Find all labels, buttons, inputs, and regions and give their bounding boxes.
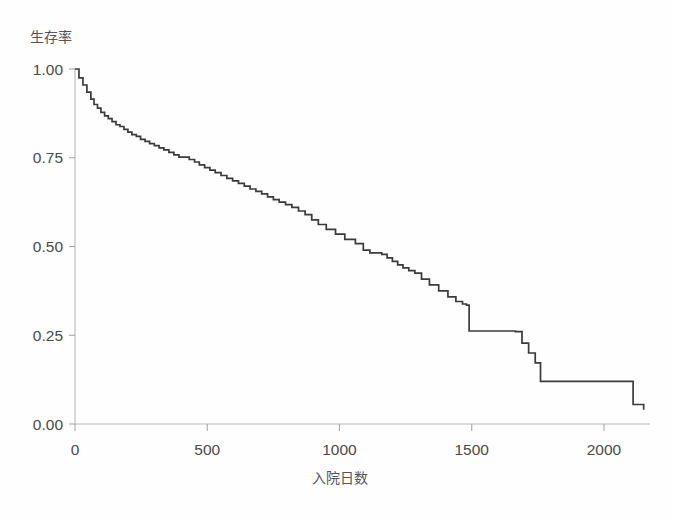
km-plot-svg: 0.000.250.500.751.00 0500100015002000 生存… [0, 0, 674, 518]
y-axis: 0.000.250.500.751.00 [33, 61, 75, 433]
y-axis-tick-labels: 0.000.250.500.751.00 [33, 61, 64, 433]
survival-chart: 0.000.250.500.751.00 0500100015002000 生存… [0, 0, 674, 518]
y-axis-title: 生存率 [30, 29, 72, 45]
x-axis: 0500100015002000 [71, 424, 650, 458]
survival-curve-line [75, 69, 644, 410]
x-axis-title: 入院日数 [312, 470, 368, 486]
y-tick-label: 0.00 [33, 416, 64, 433]
y-tick-label: 0.50 [33, 238, 64, 255]
y-tick-label: 1.00 [33, 61, 64, 78]
x-axis-ticks [75, 424, 604, 431]
x-tick-label: 0 [71, 441, 80, 458]
y-tick-label: 0.75 [33, 149, 63, 166]
x-tick-label: 1000 [322, 441, 357, 458]
y-tick-label: 0.25 [33, 327, 63, 344]
x-axis-tick-labels: 0500100015002000 [71, 441, 622, 458]
x-tick-label: 500 [194, 441, 220, 458]
x-tick-label: 1500 [455, 441, 490, 458]
y-axis-ticks [69, 69, 75, 424]
x-tick-label: 2000 [587, 441, 622, 458]
